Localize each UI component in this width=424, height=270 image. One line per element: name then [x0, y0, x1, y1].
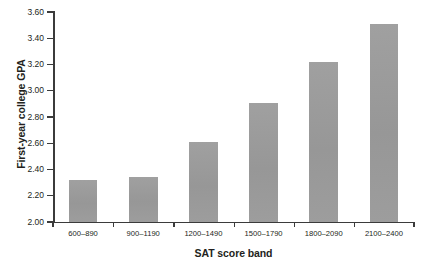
x-axis-category-label: 900–1190: [113, 229, 173, 239]
x-axis-tick: [173, 222, 174, 227]
x-axis-title: SAT score band: [53, 247, 414, 259]
bar: [370, 24, 399, 222]
y-axis-tick-label: 2.00: [4, 218, 44, 227]
x-axis-tick: [354, 222, 355, 227]
x-axis-category-label: 600–890: [53, 229, 113, 239]
y-axis-tick-label: 2.80: [4, 113, 44, 122]
y-axis-tick-label: 3.20: [4, 60, 44, 69]
x-axis-category-label: 1500–1790: [234, 229, 294, 239]
bar: [309, 62, 338, 222]
y-axis-tick-label: 3.00: [4, 86, 44, 95]
x-axis-category-label: 1200–1490: [173, 229, 233, 239]
x-axis-tick: [113, 222, 114, 227]
y-axis-tick-label: 2.40: [4, 165, 44, 174]
x-axis-tick: [413, 222, 414, 227]
x-axis-tick: [294, 222, 295, 227]
x-axis-category-label: 1800–2090: [294, 229, 354, 239]
x-axis-category-label: 2100–2400: [354, 229, 414, 239]
bar: [249, 103, 278, 222]
y-axis-tick-label: 3.60: [4, 8, 44, 17]
x-axis-tick: [234, 222, 235, 227]
y-axis-tick: [47, 11, 53, 12]
bar: [129, 177, 158, 222]
bar: [69, 180, 98, 222]
y-axis-tick: [47, 116, 53, 117]
y-axis-line: [53, 11, 55, 223]
y-axis-tick: [47, 143, 53, 144]
y-axis-tick: [47, 169, 53, 170]
y-axis-tick-label: 2.20: [4, 191, 44, 200]
y-axis-tick: [47, 195, 53, 196]
x-axis-tick: [52, 222, 53, 227]
bar-chart: First-year college GPA 2.002.202.402.602…: [0, 0, 424, 270]
y-axis-tick: [47, 38, 53, 39]
bar: [189, 142, 218, 222]
y-axis-tick: [47, 64, 53, 65]
y-axis-tick-label: 3.40: [4, 34, 44, 43]
y-axis-tick-label: 2.60: [4, 139, 44, 148]
y-axis-tick: [47, 90, 53, 91]
